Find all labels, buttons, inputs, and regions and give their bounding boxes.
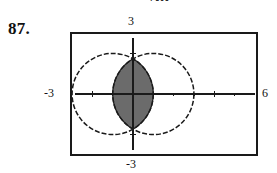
x-min-label: -3 xyxy=(44,87,54,99)
page-artifact-text: 36 xyxy=(150,0,169,1)
y-min-label: -3 xyxy=(126,158,136,170)
problem-number-label: 87. xyxy=(8,19,30,39)
graph-canvas xyxy=(70,32,258,156)
x-max-label: 6 xyxy=(262,87,268,99)
figure-page: 36 87. xyxy=(0,0,277,173)
y-max-label: 3 xyxy=(128,15,134,27)
origin-point xyxy=(132,93,134,95)
